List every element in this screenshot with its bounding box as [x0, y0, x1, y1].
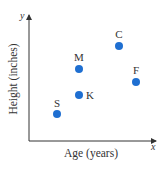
point-label-k: K	[86, 89, 94, 101]
point-label-m: M	[74, 51, 84, 63]
data-point-c: C	[115, 28, 123, 50]
x-axis-symbol: x	[150, 141, 156, 152]
data-point-f: F	[132, 64, 140, 86]
point-label-c: C	[115, 28, 122, 40]
x-axis-title: Age (years)	[64, 147, 118, 160]
scatter-chart: y x Age (years) Height (inches) S K M C …	[0, 0, 167, 169]
y-axis-title: Height (inches)	[7, 43, 20, 114]
point-label-f: F	[133, 64, 139, 76]
point-label-s: S	[54, 97, 60, 109]
data-point-k: K	[75, 89, 94, 101]
y-axis-symbol: y	[19, 10, 25, 21]
data-point-m: M	[74, 51, 84, 73]
data-point-s: S	[53, 97, 61, 118]
